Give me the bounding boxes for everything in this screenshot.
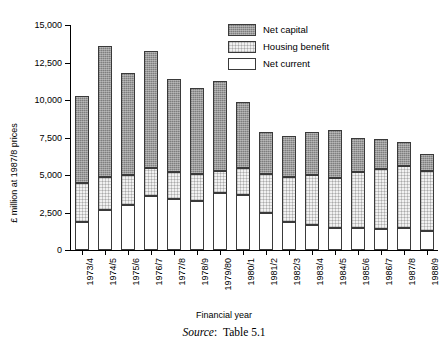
legend-item-label: Net current xyxy=(263,58,310,69)
bar-group xyxy=(167,79,181,250)
bar-group xyxy=(213,81,227,251)
bar-group xyxy=(351,138,365,251)
y-axis-tick-label: 0 xyxy=(57,246,62,255)
x-axis-tick xyxy=(404,250,405,255)
bar-segment xyxy=(75,96,89,183)
bar-segment xyxy=(282,136,296,177)
legend-item: Net capital xyxy=(228,22,329,37)
x-axis-tick xyxy=(82,250,83,255)
bar-segment xyxy=(397,228,411,251)
bar-segment xyxy=(213,171,227,194)
x-axis-tick-label: 1986/7 xyxy=(385,258,394,286)
x-axis-tick-label: 1988/9 xyxy=(431,258,440,286)
dark-hatch-swatch xyxy=(228,24,256,36)
bar-group xyxy=(328,130,342,250)
x-axis-tick xyxy=(266,250,267,255)
bar-segment xyxy=(121,175,135,205)
y-axis-tick-label: 7,500 xyxy=(39,133,62,142)
x-axis-tick-label: 1983/4 xyxy=(316,258,325,286)
bar-group xyxy=(98,46,112,250)
x-axis-tick xyxy=(381,250,382,255)
bar-segment xyxy=(75,183,89,222)
legend-item: Housing benefit xyxy=(228,39,329,54)
bar-segment xyxy=(351,228,365,251)
source-caption: Source: Table 5.1 xyxy=(0,326,448,338)
bar-segment xyxy=(374,229,388,250)
bar-segment xyxy=(144,168,158,197)
bar-group xyxy=(374,139,388,250)
bar-segment xyxy=(75,222,89,251)
bar-segment xyxy=(213,193,227,250)
legend-item: Net current xyxy=(228,56,329,71)
source-label: Source xyxy=(182,326,214,338)
x-axis-tick-label: 1980/1 xyxy=(247,258,256,286)
x-axis-tick-label: 1984/5 xyxy=(339,258,348,286)
bar-group xyxy=(190,88,204,250)
bar-group xyxy=(259,132,273,251)
bar-segment xyxy=(167,79,181,172)
bar-group xyxy=(420,154,434,250)
bar-group xyxy=(236,102,250,251)
bar-segment xyxy=(98,210,112,251)
x-axis-tick-label: 1987/8 xyxy=(408,258,417,286)
x-axis-tick-label: 1973/4 xyxy=(86,258,95,286)
x-axis-tick-label: 1979/80 xyxy=(224,258,233,291)
bar-group xyxy=(75,96,89,251)
y-axis-title: £ million at 1987/8 prices xyxy=(9,123,19,223)
y-axis-tick-label: 10,000 xyxy=(34,96,62,105)
bar-segment xyxy=(328,178,342,228)
source-separator: : xyxy=(214,326,217,338)
bar-segment xyxy=(236,168,250,195)
y-axis-tick-label: 15,000 xyxy=(34,21,62,30)
bar-group xyxy=(144,51,158,251)
bar-segment xyxy=(305,225,319,251)
figure-container: £ million at 1987/8 prices 02,5005,0007,… xyxy=(0,0,448,346)
bar-segment xyxy=(351,172,365,228)
legend-item-label: Net capital xyxy=(263,24,308,35)
bar-segment xyxy=(282,222,296,251)
bar-segment xyxy=(374,139,388,169)
x-axis-tick-label: 1975/6 xyxy=(132,258,141,286)
light-dot-swatch xyxy=(228,41,256,53)
bar-segment xyxy=(236,195,250,251)
bar-segment xyxy=(144,196,158,250)
bar-segment xyxy=(420,154,434,171)
bar-segment xyxy=(328,130,342,178)
y-axis-tick xyxy=(65,250,70,251)
source-value: Table 5.1 xyxy=(223,326,266,338)
bar-segment xyxy=(420,231,434,251)
x-axis-tick xyxy=(312,250,313,255)
bar-segment xyxy=(121,73,135,175)
x-axis-tick-label: 1977/8 xyxy=(178,258,187,286)
bar-segment xyxy=(374,169,388,229)
bar-segment xyxy=(282,177,296,222)
x-axis-tick xyxy=(243,250,244,255)
bar-segment xyxy=(190,88,204,174)
bar-segment xyxy=(328,228,342,251)
bar-segment xyxy=(121,205,135,250)
bar-segment xyxy=(259,174,273,213)
bar-segment xyxy=(98,177,112,210)
white-swatch xyxy=(228,58,256,70)
x-axis-tick-label: 1981/2 xyxy=(270,258,279,286)
bar-segment xyxy=(236,102,250,168)
x-axis-tick xyxy=(220,250,221,255)
legend-item-label: Housing benefit xyxy=(263,41,329,52)
bar-segment xyxy=(420,171,434,231)
bar-segment xyxy=(190,201,204,251)
x-axis-tick-label: 1976/7 xyxy=(155,258,164,286)
bar-segment xyxy=(98,46,112,177)
x-axis-tick-label: 1974/5 xyxy=(109,258,118,286)
bar-segment xyxy=(167,199,181,250)
bar-group xyxy=(397,142,411,250)
x-axis-tick-label: 1985/6 xyxy=(362,258,371,286)
y-axis-tick-label: 5,000 xyxy=(39,171,62,180)
y-axis-tick-label: 12,500 xyxy=(34,58,62,67)
y-axis-tick-label: 2,500 xyxy=(39,208,62,217)
bar-segment xyxy=(397,166,411,228)
x-axis-tick xyxy=(335,250,336,255)
bar-segment xyxy=(259,213,273,251)
x-axis-tick xyxy=(427,250,428,255)
bar-group xyxy=(121,73,135,250)
x-axis-tick xyxy=(358,250,359,255)
